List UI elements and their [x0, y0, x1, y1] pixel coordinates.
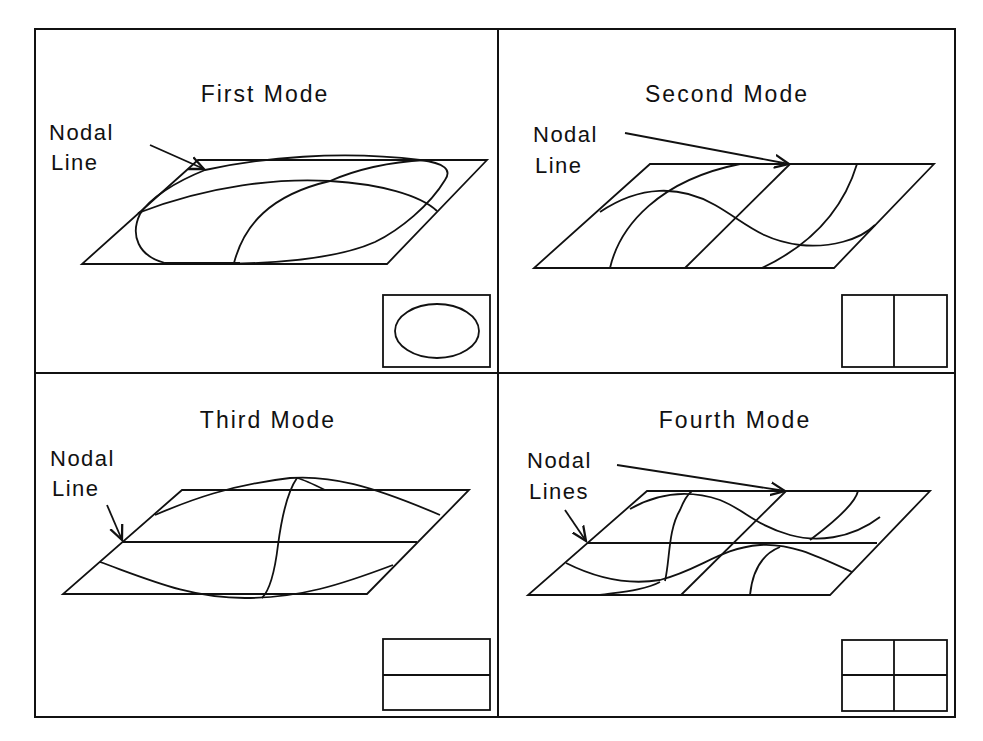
- plate-drawing: [82, 155, 487, 264]
- inset-vertical-split-diagram: [842, 295, 947, 367]
- panel-title: First Mode: [201, 81, 330, 107]
- panel-fourth-mode: Fourth Mode Nodal Lines: [527, 407, 947, 711]
- panel-title: Fourth Mode: [659, 407, 811, 433]
- nodal-label-line1: Nodal: [50, 446, 115, 471]
- nodal-label-line1: Nodal: [49, 120, 114, 145]
- nodal-label-line1: Nodal: [527, 448, 592, 473]
- inset-ellipse-diagram: [383, 295, 490, 367]
- nodal-label-line2: Lines: [529, 479, 589, 504]
- nodal-label-line2: Line: [51, 150, 99, 175]
- nodal-label-line1: Nodal: [533, 122, 598, 147]
- nodal-arrow: [625, 133, 789, 164]
- inset-horizontal-split-diagram: [383, 639, 490, 710]
- nodal-arrow-upper: [617, 465, 785, 491]
- figure-frame: [35, 29, 955, 717]
- panel-third-mode: Third Mode Nodal Line: [50, 407, 490, 710]
- nodal-arrow: [107, 505, 122, 540]
- panel-title: Second Mode: [645, 81, 809, 107]
- vibration-modes-figure: First Mode Nodal Line Second Mode Nodal …: [0, 0, 983, 741]
- plate-drawing: [534, 164, 934, 268]
- panel-second-mode: Second Mode Nodal Line: [533, 81, 947, 367]
- nodal-label-line2: Line: [52, 476, 100, 501]
- panel-title: Third Mode: [200, 407, 336, 433]
- nodal-arrow-lower: [565, 510, 586, 541]
- nodal-label-line2: Line: [535, 153, 583, 178]
- inset-quad-split-diagram: [842, 640, 947, 711]
- plate-drawing: [528, 491, 930, 595]
- plate-drawing: [63, 477, 469, 598]
- nodal-arrow: [150, 145, 204, 169]
- panel-first-mode: First Mode Nodal Line: [49, 81, 490, 367]
